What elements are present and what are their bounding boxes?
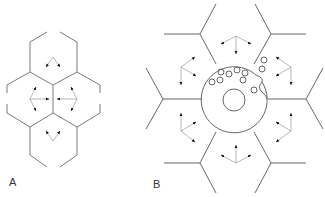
arrow-cluster-b-bottom <box>221 145 251 163</box>
arrow-cluster-left <box>30 87 49 111</box>
arrow-cluster-b-upper-left <box>181 57 196 85</box>
hex-left <box>7 72 30 93</box>
hex-top <box>30 32 77 85</box>
panel-label-a: A <box>9 176 16 188</box>
central-cell <box>201 67 267 133</box>
arrow-cluster-bottom <box>46 131 60 141</box>
arrow-cluster-top <box>46 57 60 67</box>
diagram-canvas <box>0 0 325 197</box>
arrow-cluster-right <box>57 87 77 111</box>
panel-label-b: B <box>153 178 160 190</box>
panel-a <box>7 32 100 167</box>
vesicles <box>209 57 267 93</box>
arrow-cluster-b-top <box>221 36 251 54</box>
hex-bottom <box>30 127 47 167</box>
hex-right <box>77 72 100 93</box>
panel-b <box>146 4 323 193</box>
surrounding-cells <box>146 4 323 193</box>
arrow-cluster-b-lower-left <box>181 113 196 142</box>
arrow-cluster-b-lower-right <box>276 113 291 142</box>
nucleus <box>223 89 245 111</box>
arrow-cluster-b-upper-right <box>276 57 291 85</box>
